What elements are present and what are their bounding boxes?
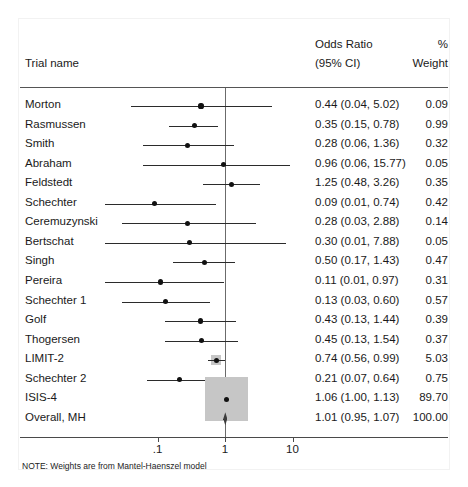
odds-ratio-value: 0.50 (0.17, 1.43) (315, 254, 399, 266)
weight-value: 0.47 (426, 254, 448, 266)
weight-value: 89.70 (419, 391, 448, 403)
trial-name-label: Rasmussen (25, 118, 86, 130)
odds-ratio-value: 0.28 (0.03, 2.88) (315, 215, 399, 227)
trial-name-label: Schechter (25, 196, 77, 208)
weight-value: 5.03 (426, 352, 448, 364)
point-estimate-marker (199, 338, 204, 343)
point-estimate-marker (214, 358, 219, 363)
trial-name-label: ISIS-4 (25, 391, 57, 403)
weight-value: 0.57 (426, 294, 448, 306)
trial-name-label: LIMIT-2 (25, 352, 64, 364)
axis-tick (293, 437, 294, 442)
weight-value: 0.31 (426, 274, 448, 286)
point-estimate-marker (221, 162, 226, 167)
point-estimate-marker (198, 103, 203, 108)
trial-name-label: Abraham (25, 157, 72, 169)
trial-name-label: Bertschat (25, 235, 74, 247)
trial-name-label: Overall, MH (25, 411, 86, 423)
weight-value: 0.39 (426, 313, 448, 325)
odds-ratio-value: 0.21 (0.07, 0.64) (315, 372, 399, 384)
forest-plot: Trial name Odds Ratio (95% CI) % Weight … (0, 0, 468, 487)
confidence-interval-line (105, 282, 224, 283)
trial-name-label: Schechter 2 (25, 372, 86, 384)
weight-value: 0.05 (426, 157, 448, 169)
weight-value: 100.00 (413, 411, 448, 423)
odds-ratio-value: 0.28 (0.06, 1.36) (315, 137, 399, 149)
point-estimate-marker (185, 143, 190, 148)
odds-ratio-value: 0.35 (0.15, 0.78) (315, 118, 399, 130)
point-estimate-marker (152, 201, 157, 206)
point-estimate-marker (163, 299, 168, 304)
trial-name-label: Schechter 1 (25, 294, 86, 306)
point-estimate-marker (198, 318, 203, 323)
odds-ratio-value: 0.09 (0.01, 0.74) (315, 196, 399, 208)
odds-ratio-value: 0.74 (0.56, 0.99) (315, 352, 399, 364)
column-header-weight: Weight (412, 57, 448, 69)
trial-name-label: Pereira (25, 274, 62, 286)
weight-value: 0.75 (426, 372, 448, 384)
axis-tick-label: 1 (222, 443, 228, 455)
odds-ratio-value: 1.06 (1.00, 1.13) (315, 391, 399, 403)
axis-tick-label: 10 (286, 443, 299, 455)
trial-name-label: Ceremuzynski (25, 215, 98, 227)
weight-value: 0.05 (426, 235, 448, 247)
trial-name-label: Feldstedt (25, 176, 72, 188)
odds-ratio-value: 1.01 (0.95, 1.07) (315, 411, 399, 423)
odds-ratio-value: 0.45 (0.13, 1.54) (315, 333, 399, 345)
confidence-interval-line (105, 243, 286, 244)
weight-value: 0.14 (426, 215, 448, 227)
column-header-percent: % (438, 38, 448, 50)
trial-name-label: Singh (25, 254, 54, 266)
trial-name-label: Smith (25, 137, 54, 149)
trial-name-label: Morton (25, 98, 61, 110)
point-estimate-marker (185, 221, 190, 226)
axis-tick (225, 437, 226, 442)
footnote: NOTE: Weights are from Mantel-Haenszel m… (22, 461, 207, 471)
plot-area (105, 88, 290, 437)
weight-value: 0.32 (426, 137, 448, 149)
point-estimate-marker (192, 123, 197, 128)
trial-name-label: Golf (25, 313, 46, 325)
point-estimate-marker (187, 240, 192, 245)
confidence-interval-line (105, 204, 216, 205)
odds-ratio-value: 0.13 (0.03, 0.60) (315, 294, 399, 306)
confidence-interval-line (143, 165, 290, 166)
odds-ratio-value: 0.11 (0.01, 0.97) (315, 274, 399, 286)
point-estimate-marker (202, 260, 207, 265)
point-estimate-marker (177, 377, 182, 382)
odds-ratio-value: 0.44 (0.04, 5.02) (315, 98, 399, 110)
column-header-confidence-interval: (95% CI) (315, 57, 360, 69)
axis-tick-label: .1 (153, 443, 163, 455)
weight-value: 0.37 (426, 333, 448, 345)
x-axis-line (20, 437, 448, 438)
odds-ratio-value: 1.25 (0.48, 3.26) (315, 176, 399, 188)
weight-value: 0.35 (426, 176, 448, 188)
axis-tick (158, 437, 159, 442)
point-estimate-marker (229, 182, 234, 187)
weight-value: 0.42 (426, 196, 448, 208)
trial-name-label: Thogersen (25, 333, 80, 345)
weight-value: 0.99 (426, 118, 448, 130)
column-header-odds-ratio: Odds Ratio (315, 38, 373, 50)
odds-ratio-value: 0.30 (0.01, 7.88) (315, 235, 399, 247)
odds-ratio-value: 0.96 (0.06, 15.77) (315, 157, 406, 169)
point-estimate-marker (158, 279, 163, 284)
weight-value: 0.09 (426, 98, 448, 110)
column-header-trial-name: Trial name (25, 57, 79, 69)
odds-ratio-value: 0.43 (0.13, 1.44) (315, 313, 399, 325)
